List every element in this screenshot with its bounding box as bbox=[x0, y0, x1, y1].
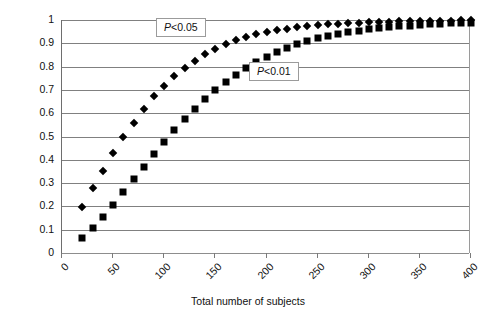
y-axis-tick-label: 0 bbox=[6, 247, 54, 258]
data-point bbox=[151, 150, 158, 157]
x-axis-tick bbox=[112, 253, 113, 258]
y-axis-tick-label: 0.9 bbox=[6, 37, 54, 48]
data-point bbox=[447, 20, 454, 27]
x-axis-title: Total number of subjects bbox=[0, 295, 496, 307]
data-point bbox=[191, 106, 198, 113]
x-axis-tick bbox=[266, 253, 267, 258]
data-point bbox=[232, 71, 239, 78]
data-point bbox=[171, 127, 178, 134]
data-point bbox=[89, 224, 96, 231]
y-axis-tick-label: 1 bbox=[6, 14, 54, 25]
x-axis-tick bbox=[61, 253, 62, 258]
data-point bbox=[283, 44, 290, 51]
data-point bbox=[416, 21, 423, 28]
data-point bbox=[130, 176, 137, 183]
data-point bbox=[110, 202, 117, 209]
data-point bbox=[304, 37, 311, 44]
x-axis-tick bbox=[368, 253, 369, 258]
data-point bbox=[140, 163, 147, 170]
data-point bbox=[222, 79, 229, 86]
data-point bbox=[396, 23, 403, 30]
data-point bbox=[120, 189, 127, 196]
y-axis-tick-label: 0.1 bbox=[6, 224, 54, 235]
annotation-p-symbol: P bbox=[164, 21, 171, 33]
data-point bbox=[314, 35, 321, 42]
x-axis-tick bbox=[214, 253, 215, 258]
power-vs-sample-size-chart: Power 00.10.20.30.40.50.60.70.80.91 0501… bbox=[0, 0, 496, 320]
series-2 bbox=[62, 20, 469, 253]
data-point bbox=[386, 24, 393, 31]
plot-area bbox=[61, 20, 470, 253]
data-point bbox=[99, 213, 106, 220]
data-point bbox=[375, 25, 382, 32]
data-point bbox=[335, 30, 342, 37]
y-axis-tick-label: 0.3 bbox=[6, 177, 54, 188]
data-point bbox=[212, 87, 219, 94]
annotation-p-lt-005: P<0.05 bbox=[156, 18, 206, 37]
y-axis-tick-label: 0.6 bbox=[6, 107, 54, 118]
data-point bbox=[79, 234, 86, 241]
annotation-p-symbol: P bbox=[257, 65, 264, 77]
data-point bbox=[161, 138, 168, 145]
annotation-value: 0.05 bbox=[177, 21, 197, 33]
data-point bbox=[294, 41, 301, 48]
y-axis-tick-label: 0.2 bbox=[6, 200, 54, 211]
y-axis-tick-label: 0.4 bbox=[6, 154, 54, 165]
data-point bbox=[263, 53, 270, 60]
y-axis-tick-label: 0.5 bbox=[6, 131, 54, 142]
data-point bbox=[468, 19, 475, 26]
x-axis-tick bbox=[163, 253, 164, 258]
data-point bbox=[365, 26, 372, 33]
data-point bbox=[427, 21, 434, 28]
data-point bbox=[345, 29, 352, 36]
y-axis-tick-label: 0.7 bbox=[6, 84, 54, 95]
data-point bbox=[202, 96, 209, 103]
data-point bbox=[181, 116, 188, 123]
data-point bbox=[437, 20, 444, 27]
annotation-value: 0.01 bbox=[270, 65, 290, 77]
y-axis-tick-label: 0.8 bbox=[6, 61, 54, 72]
data-point bbox=[324, 33, 331, 40]
x-axis-tick bbox=[419, 253, 420, 258]
data-point bbox=[273, 48, 280, 55]
x-axis-tick bbox=[470, 253, 471, 258]
data-point bbox=[406, 22, 413, 29]
data-point bbox=[355, 27, 362, 34]
x-axis-tick bbox=[317, 253, 318, 258]
annotation-p-lt-001: P<0.01 bbox=[249, 62, 299, 81]
data-point bbox=[457, 20, 464, 27]
